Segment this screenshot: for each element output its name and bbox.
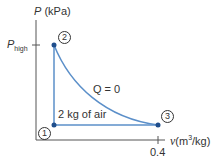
mass-annotation: 2 kg of air [58, 109, 106, 120]
phigh-subscript: high [14, 45, 27, 52]
y-axis-symbol: P [34, 5, 41, 17]
x-tick-label-04: 0.4 [150, 147, 165, 158]
state-point-1 [52, 123, 57, 128]
x-axis-unit-suffix: /kg) [192, 135, 210, 147]
state-point-3 [156, 123, 161, 128]
state-label-1: 1 [38, 127, 51, 140]
x-axis-unit-prefix: (m [175, 135, 188, 147]
y-axis-label: P (kPa) [34, 6, 71, 17]
x-axis-label: v(m3/kg) [170, 134, 210, 147]
state-label-2: 2 [58, 31, 71, 44]
adiabatic-annotation: Q = 0 [93, 84, 120, 95]
y-tick-label-phigh: Phigh [7, 39, 28, 52]
y-axis-unit: (kPa) [44, 5, 70, 17]
state-label-3: 3 [161, 110, 174, 123]
state-point-2 [52, 43, 57, 48]
